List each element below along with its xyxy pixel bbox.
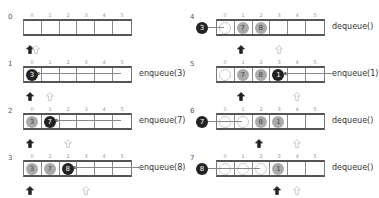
index-label: 3 [77, 106, 95, 112]
step-number: 4 [190, 13, 194, 21]
operation-label: enqueue(1) [332, 69, 378, 78]
index-label: 2 [252, 59, 270, 65]
index-label: 0 [216, 106, 234, 112]
enqueue-path [74, 167, 139, 168]
index-label: 5 [306, 59, 324, 65]
queue-array [23, 19, 132, 36]
front-pointer-icon [255, 133, 263, 142]
rear-pointer-icon [32, 39, 40, 48]
rear-pointer-icon [293, 180, 301, 189]
index-label: 5 [306, 106, 324, 112]
step-number: 7 [190, 154, 194, 162]
index-label: 3 [77, 12, 95, 18]
index-label: 4 [288, 59, 306, 65]
step-number: 0 [8, 13, 12, 21]
queue-slot [60, 115, 78, 128]
queue-item: 1 [272, 163, 284, 175]
queue-slot [288, 68, 306, 81]
index-label: 4 [288, 106, 306, 112]
queue-slot [288, 21, 306, 34]
queue-slot [77, 21, 95, 34]
enqueue-path [56, 120, 121, 121]
queue-slot [77, 68, 95, 81]
queue-item: 1 [272, 69, 284, 81]
queue-item: 3 [26, 69, 38, 81]
queue-item: 8 [255, 69, 267, 81]
dequeue-path [208, 168, 260, 169]
index-label: 0 [23, 59, 41, 65]
queue-slot: 1 [270, 162, 288, 175]
step-number: 3 [8, 154, 12, 162]
front-pointer-icon [26, 180, 34, 189]
queue-slot [95, 68, 113, 81]
queue-slot [77, 162, 95, 175]
index-label: 3 [270, 59, 288, 65]
queue-slot [113, 162, 131, 175]
dequeued-item: 8 [196, 163, 208, 175]
index-label: 1 [41, 106, 59, 112]
queue-slot [95, 162, 113, 175]
queue-slot [306, 68, 324, 81]
queue-item: 3 [26, 163, 38, 175]
queue-slot: 7 [235, 68, 253, 81]
index-label: 3 [77, 59, 95, 65]
operation-label: dequeue() [332, 163, 373, 172]
index-label: 0 [216, 153, 234, 159]
queue-slot [95, 115, 113, 128]
index-label: 1 [41, 59, 59, 65]
operation-label: enqueue(3) [139, 69, 185, 78]
index-label: 5 [113, 106, 131, 112]
queue-item: 7 [44, 116, 56, 128]
rear-pointer-icon [46, 86, 54, 95]
index-label: 2 [59, 59, 77, 65]
index-label: 4 [95, 59, 113, 65]
queue-slot [60, 68, 78, 81]
index-label: 1 [234, 106, 252, 112]
index-label: 0 [23, 12, 41, 18]
index-label: 2 [252, 12, 270, 18]
queue-slot [42, 21, 60, 34]
index-label: 3 [77, 153, 95, 159]
queue-slot: 3 [24, 115, 42, 128]
queue-slot: 3 [24, 162, 42, 175]
queue-array: 781 [216, 66, 325, 83]
queue-slot: 7 [42, 162, 60, 175]
rear-pointer-icon [64, 133, 72, 142]
index-label: 0 [23, 106, 41, 112]
queue-item: 7 [44, 163, 56, 175]
queue-slot [77, 115, 95, 128]
index-label: 1 [234, 12, 252, 18]
queue-slot: 1 [270, 115, 288, 128]
index-label: 5 [113, 153, 131, 159]
index-label: 1 [234, 153, 252, 159]
queue-item: 7 [237, 69, 249, 81]
rear-pointer-icon [82, 180, 90, 189]
rear-pointer-icon [275, 39, 283, 48]
queue-slot [288, 162, 306, 175]
index-label: 1 [234, 59, 252, 65]
index-label: 5 [306, 12, 324, 18]
empty-slot-marker [219, 69, 231, 81]
index-label: 4 [95, 12, 113, 18]
queue-slot: 8 [253, 68, 271, 81]
index-label: 0 [216, 59, 234, 65]
dequeue-path [208, 121, 242, 122]
step-number: 1 [8, 60, 12, 68]
operation-label: dequeue() [332, 22, 373, 31]
queue-slot: 7 [235, 21, 253, 34]
index-label: 4 [288, 12, 306, 18]
index-label: 2 [59, 153, 77, 159]
operation-label: dequeue() [332, 116, 373, 125]
queue-slot [113, 21, 131, 34]
step-number: 5 [190, 60, 194, 68]
index-label: 0 [216, 12, 234, 18]
dequeued-item: 3 [196, 22, 208, 34]
queue-item: 8 [255, 116, 267, 128]
index-label: 3 [270, 106, 288, 112]
front-pointer-icon [237, 86, 245, 95]
dequeued-item: 7 [196, 116, 208, 128]
queue-slot [306, 162, 324, 175]
queue-slot [270, 21, 288, 34]
enqueue-path [38, 73, 121, 74]
queue-slot [306, 115, 324, 128]
